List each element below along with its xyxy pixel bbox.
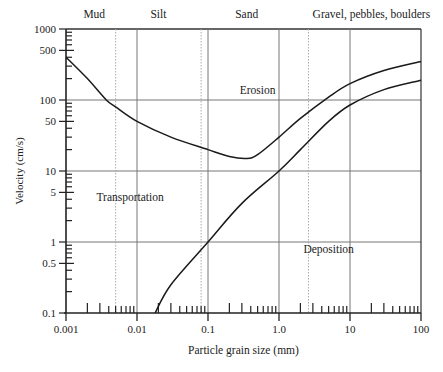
labels: 0.10.515105010050010000.0010.010.11.0101… — [13, 8, 431, 357]
hjulstrom-chart: 0.10.515105010050010000.0010.010.11.0101… — [0, 0, 443, 372]
x-tick-label: 0.001 — [54, 323, 79, 335]
grid-lines — [66, 29, 421, 313]
y-axis-title: Velocity (cm/s) — [13, 137, 26, 205]
y-tick-label: 10 — [45, 165, 57, 177]
y-tick-label: 1 — [51, 236, 57, 248]
y-tick-label: 0.5 — [42, 257, 56, 269]
region-label-transportation: Transportation — [96, 191, 164, 204]
y-tick-label: 100 — [40, 94, 57, 106]
region-label-erosion: Erosion — [240, 84, 276, 96]
region-label-deposition: Deposition — [303, 243, 354, 256]
y-tick-label: 5 — [51, 186, 57, 198]
erosion-curve — [66, 57, 421, 158]
y-tick-label: 500 — [40, 44, 57, 56]
x-axis-title: Particle grain size (mm) — [188, 344, 299, 357]
y-tick-label: 0.1 — [42, 307, 56, 319]
x-tick-label: 100 — [413, 323, 430, 335]
x-tick-label: 10 — [345, 323, 357, 335]
x-tick-label: 1.0 — [272, 323, 286, 335]
settling-curve — [155, 80, 421, 313]
x-tick-label: 0.1 — [201, 323, 215, 335]
sediment-category-label: Mud — [83, 8, 105, 20]
x-tick-label: 0.01 — [127, 323, 146, 335]
y-tick-label: 1000 — [34, 23, 57, 35]
axes — [59, 29, 421, 321]
y-tick-label: 50 — [45, 115, 57, 127]
sediment-category-label: Sand — [235, 8, 258, 20]
sediment-category-label: Silt — [150, 8, 167, 20]
sediment-category-label: Gravel, pebbles, boulders — [313, 8, 431, 21]
